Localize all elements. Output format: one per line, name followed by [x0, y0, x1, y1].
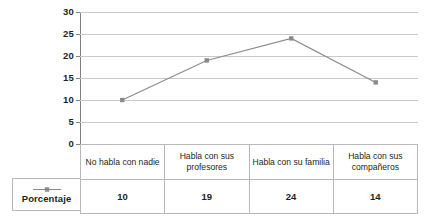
- legend: Porcentaje: [12, 178, 81, 211]
- series-line-chart: [80, 12, 418, 144]
- series-line: [122, 38, 376, 100]
- category-cell-1: Habla con sus profesores: [165, 145, 249, 180]
- y-axis-tick-label: 5: [34, 117, 74, 127]
- data-point-marker: [374, 80, 378, 84]
- y-axis-tick-label: 20: [34, 51, 74, 61]
- table-row-values: 10192414: [81, 180, 418, 214]
- data-point-marker: [120, 98, 124, 102]
- category-cell-2: Habla con su familia: [249, 145, 333, 180]
- value-cell-0: 10: [81, 180, 165, 214]
- chart-figure: 302520151050 Porcentaje No habla con nad…: [0, 0, 432, 216]
- y-axis-tick-label: 25: [34, 29, 74, 39]
- category-cell-0: No habla con nadie: [81, 145, 165, 180]
- value-cell-1: 19: [165, 180, 249, 214]
- data-table: No habla con nadieHabla con sus profesor…: [80, 144, 418, 214]
- y-axis-tick-label: 30: [34, 7, 74, 17]
- value-cell-3: 14: [333, 180, 417, 214]
- value-cell-2: 24: [249, 180, 333, 214]
- data-point-marker: [205, 58, 209, 62]
- data-point-marker: [289, 36, 293, 40]
- legend-label: Porcentaje: [22, 194, 72, 204]
- y-axis-tick-label: 15: [34, 73, 74, 83]
- category-cell-3: Habla con sus compañeros: [333, 145, 417, 180]
- table-row-categories: No habla con nadieHabla con sus profesor…: [81, 145, 418, 180]
- line-square-marker-icon: [32, 186, 62, 193]
- plot-area: [80, 12, 418, 144]
- legend-marker: [44, 187, 48, 191]
- y-axis-tick-label: 10: [34, 95, 74, 105]
- y-axis-tick-label: 0: [34, 139, 74, 149]
